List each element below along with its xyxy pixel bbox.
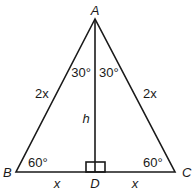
angle-label-bad: 30° xyxy=(71,65,91,80)
vertex-label-c: C xyxy=(182,165,192,180)
triangle-diagram: A B C D 30° 30° 60° 60° 2x 2x x x h xyxy=(0,0,194,192)
side-label-ab: 2x xyxy=(35,86,49,101)
vertex-label-d: D xyxy=(90,176,99,191)
altitude-label-h: h xyxy=(82,111,89,126)
vertex-label-a: A xyxy=(90,3,100,18)
angle-label-b: 60° xyxy=(28,155,48,170)
side-label-dc: x xyxy=(131,176,139,191)
side-label-ac: 2x xyxy=(143,86,157,101)
side-label-bd: x xyxy=(53,176,61,191)
vertex-label-b: B xyxy=(3,165,12,180)
angle-label-c: 60° xyxy=(143,155,163,170)
angle-label-dac: 30° xyxy=(99,65,119,80)
